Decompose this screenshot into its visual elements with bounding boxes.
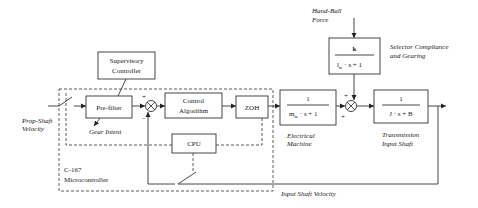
cpu-label: CPU [187,140,201,148]
selector-numerator: k [353,45,357,53]
sum1-minus-sign: − [142,115,146,123]
transmission-denominator: J · s + B [389,110,413,118]
cpu-block: CPU [172,134,216,153]
svg-text:mtc · s + 1: mtc · s + 1 [289,110,318,119]
sampling-switch-2 [178,172,196,184]
electrical-denominator-b: · s + 1 [298,110,318,118]
summing-junction-2 [346,101,357,112]
supervisory-controller-block: Supervisory Controller [98,52,155,79]
selector-label-1: Selector Compliance [390,43,449,51]
supervisory-to-prefilter-line [118,79,126,96]
selector-denominator-b: · s + 1 [343,61,363,69]
transmission-label-2: Input Shaft [381,140,414,148]
supervisory-label-1: Supervisory [110,57,144,65]
sum1-plus-sign: + [142,93,146,101]
transmission-label-1: Transmission [382,131,420,139]
electrical-label-2: Machine [286,140,312,148]
zoh-block: ZOH [236,96,268,118]
control-label-1: Control [183,97,204,105]
microcontroller-label-2: Microcontroller [64,176,109,184]
feedback-line-left [148,112,175,184]
prefilter-label: Pre-filter [96,104,122,112]
selector-label-2: and Gearing [390,52,426,60]
transmission-block: 1 J · s + B [374,90,428,123]
selector-compliance-block: k ltc · s + 1 [329,38,380,74]
transmission-numerator: 1 [399,95,403,103]
prop-shaft-label-1: Prop-Shaft [21,117,54,125]
microcontroller-label-1: C-167 [64,166,82,174]
block-diagram: Supervisory Controller Prop-Shaft Veloci… [0,0,478,208]
control-label-2: Algorithm [179,107,209,115]
sum2-plus-top: + [344,92,348,100]
input-shaft-velocity-label: Input Shaft Velocity [280,190,337,198]
electrical-numerator: 1 [306,95,310,103]
prefilter-block: Pre-filter [86,96,132,118]
sum2-plus-left: + [341,113,345,121]
zoh-label: ZOH [245,104,259,112]
hand-ball-label-1: Hand-Ball [311,7,342,15]
electrical-label-1: Electrical [286,132,315,140]
electrical-machine-block: 1 mtc · s + 1 [280,90,336,125]
control-algorithm-block: Control Algorithm [165,93,222,118]
prop-shaft-label-2: Velocity [22,125,45,133]
hand-ball-label-2: Force [311,16,328,24]
gear-intent-label: Gear Intent [89,128,123,136]
supervisory-label-2: Controller [112,67,141,75]
gear-intent-arrow [94,118,100,126]
summing-junction-1 [146,101,157,112]
sampling-switch-1 [59,97,72,106]
